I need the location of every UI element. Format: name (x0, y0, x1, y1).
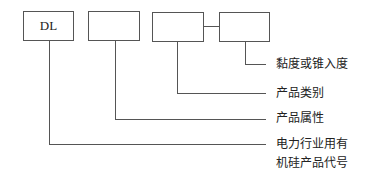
code-box-product-category (152, 12, 204, 42)
label-product-code-line1: 电力行业用有 (276, 135, 348, 154)
leader-line-viscosity-horizontal (245, 64, 266, 65)
leader-line-category-vertical (177, 42, 178, 94)
leader-line-category-horizontal (177, 93, 266, 94)
code-box-product-code: DL (23, 11, 74, 41)
leader-line-property-horizontal (115, 119, 266, 120)
leader-line-viscosity-vertical (245, 42, 246, 65)
leader-line-code-horizontal (49, 144, 266, 145)
box-connector-dash (204, 26, 219, 27)
label-product-code-line2: 机硅产品代号 (276, 154, 348, 172)
code-box-text: DL (40, 18, 57, 34)
code-box-product-property (88, 11, 140, 41)
code-box-viscosity (219, 12, 270, 42)
leader-line-code-vertical (49, 41, 50, 145)
label-product-category: 产品类别 (276, 84, 324, 103)
leader-line-property-vertical (115, 41, 116, 119)
label-viscosity: 黏度或锥入度 (276, 55, 348, 74)
label-product-property: 产品属性 (276, 109, 324, 128)
